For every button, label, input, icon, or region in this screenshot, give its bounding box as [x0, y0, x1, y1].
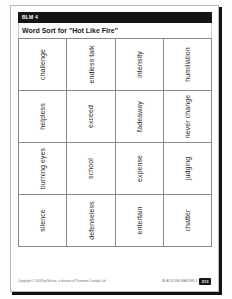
word-card[interactable]: helpless: [19, 91, 67, 143]
word-card[interactable]: intensity: [116, 39, 164, 91]
page-number: 213: [199, 278, 211, 285]
table-row: burning eyes school expense judging: [19, 143, 212, 195]
word-card[interactable]: school: [67, 143, 115, 195]
word-card-label: humiliation: [184, 47, 191, 82]
word-card[interactable]: chatter: [164, 195, 212, 247]
page-content-area: BLM 4 Word Sort for "Hot Like Fire" chal…: [18, 12, 212, 286]
word-card[interactable]: judging: [164, 143, 212, 195]
word-card[interactable]: endless talk: [67, 39, 115, 91]
word-card[interactable]: entertain: [116, 195, 164, 247]
page-title: Word Sort for "Hot Like Fire": [22, 27, 118, 34]
word-card-label: defenseless: [87, 201, 94, 239]
word-card-label: helpless: [39, 103, 46, 129]
word-card-label: fadeaway: [136, 101, 143, 132]
word-card-label: judging: [184, 157, 191, 180]
word-card[interactable]: humiliation: [164, 39, 212, 91]
word-card-label: endless talk: [87, 45, 94, 83]
word-card[interactable]: never change: [164, 91, 212, 143]
copyright-notice: Copyright © 2008 by Nelson, a division o…: [18, 280, 106, 284]
word-card-label: school: [87, 158, 94, 179]
page-footer: Copyright © 2008 by Nelson, a division o…: [18, 277, 211, 286]
worksheet-title-row: Word Sort for "Hot Like Fire": [18, 23, 212, 38]
word-card[interactable]: silence: [19, 195, 67, 247]
word-card[interactable]: burning eyes: [19, 143, 67, 195]
scanned-page-canvas: BLM 4 Word Sort for "Hot Like Fire" chal…: [0, 0, 232, 299]
word-card-label: chatter: [184, 209, 191, 231]
word-card[interactable]: challenge: [19, 39, 67, 91]
word-card-label: burning eyes: [39, 148, 46, 189]
footer-right-group: BLACKLINE MASTER 4 213: [162, 278, 211, 285]
word-card[interactable]: exceed: [67, 91, 115, 143]
word-sort-grid: challenge endless talk intensity humilia…: [18, 38, 212, 247]
table-row: helpless exceed fadeaway never change: [19, 91, 212, 143]
word-card-label: intensity: [136, 51, 143, 78]
table-row: silence defenseless entertain chatter: [19, 195, 212, 247]
word-card[interactable]: expense: [116, 143, 164, 195]
word-card-label: exceed: [87, 105, 94, 128]
word-card-label: challenge: [39, 49, 46, 80]
word-card-label: entertain: [136, 206, 143, 234]
word-card-label: silence: [39, 209, 46, 232]
blackline-master-label: BLACKLINE MASTER 4: [162, 280, 197, 283]
worksheet-page: BLM 4 Word Sort for "Hot Like Fire" chal…: [10, 5, 219, 292]
word-card[interactable]: defenseless: [67, 195, 115, 247]
blm-header-bar: BLM 4: [18, 12, 212, 23]
word-card[interactable]: fadeaway: [116, 91, 164, 143]
word-card-label: expense: [136, 155, 143, 182]
table-row: challenge endless talk intensity humilia…: [19, 39, 212, 91]
word-card-label: never change: [184, 95, 191, 139]
blm-code-label: BLM 4: [22, 15, 38, 20]
